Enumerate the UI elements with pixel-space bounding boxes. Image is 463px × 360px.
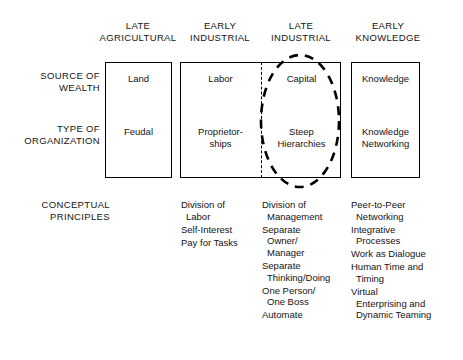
principle-item: Division ofManagement — [262, 199, 348, 222]
cell-text: Capital — [262, 73, 341, 85]
principle-line: Separate — [262, 224, 348, 236]
principle-item: Automate — [262, 309, 348, 321]
column-header-line1: EARLY — [180, 20, 260, 32]
cell-org-early-industrial: Proprietor- ships — [181, 126, 260, 149]
column-header-line2: AGRICULTURAL — [98, 32, 178, 44]
column-header-line1: LATE — [98, 20, 178, 32]
cell-text-line1: Knowledge — [351, 126, 420, 138]
cell-wealth-early-industrial: Labor — [181, 73, 260, 85]
cell-org-late-industrial: Steep Hierarchies — [262, 126, 341, 149]
column-header-line2: INDUSTRIAL — [180, 32, 260, 44]
principle-item: Division ofLabor — [181, 199, 259, 222]
row-label-source-of-wealth: SOURCE OF WEALTH — [0, 70, 100, 94]
cell-text: Land — [105, 73, 172, 85]
principles-column-late-industrial: Division ofManagementSeparateOwner/Manag… — [262, 199, 348, 322]
principle-line: Peer-to-Peer — [351, 199, 463, 211]
column-header-late-industrial: LATE INDUSTRIAL — [261, 20, 341, 44]
principle-line: Work as Dialogue — [351, 248, 463, 260]
principle-line: Dynamic Teaming — [351, 309, 463, 321]
conceptual-principles-label-line1: CONCEPTUAL — [0, 199, 110, 211]
principle-line: Timing — [351, 273, 463, 285]
principle-line: Manager — [262, 247, 348, 259]
cell-wealth-late-industrial: Capital — [262, 73, 341, 85]
cell-text: Feudal — [105, 126, 172, 138]
principle-line: Division of — [262, 199, 348, 211]
principle-line: Self-Interest — [181, 224, 259, 236]
principle-line: Processes — [351, 235, 463, 247]
column-header-line2: KNOWLEDGE — [346, 32, 430, 44]
column-header-early-knowledge: EARLY KNOWLEDGE — [346, 20, 430, 44]
principle-item: IntegrativeProcesses — [351, 224, 463, 247]
principle-line: Management — [262, 211, 348, 223]
principle-line: Separate — [262, 260, 348, 272]
principle-line: Pay for Tasks — [181, 237, 259, 249]
conceptual-principles-label: CONCEPTUAL PRINCIPLES — [0, 199, 110, 223]
principle-line: Division of — [181, 199, 259, 211]
row-label-line2: ORGANIZATION — [0, 135, 100, 147]
cell-org-late-agricultural: Feudal — [105, 126, 172, 138]
column-header-late-agricultural: LATE AGRICULTURAL — [98, 20, 178, 44]
principle-line: Labor — [181, 211, 259, 223]
cell-text-line1: Proprietor- — [181, 126, 260, 138]
principle-line: Networking — [351, 211, 463, 223]
principle-line: Enterprising and — [351, 298, 463, 310]
principle-line: One Boss — [262, 296, 348, 308]
cell-text-line2: Networking — [351, 138, 420, 150]
principle-item: One Person/One Boss — [262, 285, 348, 308]
cell-org-early-knowledge: Knowledge Networking — [351, 126, 420, 149]
diagram-canvas: LATE AGRICULTURAL EARLY INDUSTRIAL LATE … — [0, 0, 463, 360]
principle-item: Self-Interest — [181, 224, 259, 236]
principle-line: One Person/ — [262, 285, 348, 297]
conceptual-principles-label-line2: PRINCIPLES — [0, 211, 110, 223]
cell-text: Labor — [181, 73, 260, 85]
row-label-line1: TYPE OF — [0, 123, 100, 135]
cell-text-line2: ships — [181, 138, 260, 150]
principles-column-early-knowledge: Peer-to-PeerNetworkingIntegrativeProcess… — [351, 199, 463, 322]
row-label-line1: SOURCE OF — [0, 70, 100, 82]
cell-text-line2: Hierarchies — [262, 138, 341, 150]
principle-line: Virtual — [351, 286, 463, 298]
cell-wealth-early-knowledge: Knowledge — [351, 73, 420, 85]
principle-line: Human Time and — [351, 261, 463, 273]
column-header-line1: EARLY — [346, 20, 430, 32]
cell-text: Knowledge — [351, 73, 420, 85]
cell-text-line1: Steep — [262, 126, 341, 138]
principle-item: SeparateThinking/Doing — [262, 260, 348, 283]
principle-item: VirtualEnterprising andDynamic Teaming — [351, 286, 463, 321]
column-header-line1: LATE — [261, 20, 341, 32]
principle-item: Work as Dialogue — [351, 248, 463, 260]
principle-line: Integrative — [351, 224, 463, 236]
principle-item: Peer-to-PeerNetworking — [351, 199, 463, 222]
principle-line: Automate — [262, 309, 348, 321]
cell-wealth-late-agricultural: Land — [105, 73, 172, 85]
principle-item: Human Time andTiming — [351, 261, 463, 284]
row-label-line2: WEALTH — [0, 82, 100, 94]
principle-line: Owner/ — [262, 235, 348, 247]
column-header-line2: INDUSTRIAL — [261, 32, 341, 44]
principle-item: SeparateOwner/Manager — [262, 224, 348, 259]
column-header-early-industrial: EARLY INDUSTRIAL — [180, 20, 260, 44]
principles-column-early-industrial: Division ofLaborSelf-InterestPay for Tas… — [181, 199, 259, 250]
row-label-type-of-organization: TYPE OF ORGANIZATION — [0, 123, 100, 147]
principle-item: Pay for Tasks — [181, 237, 259, 249]
principle-line: Thinking/Doing — [262, 272, 348, 284]
